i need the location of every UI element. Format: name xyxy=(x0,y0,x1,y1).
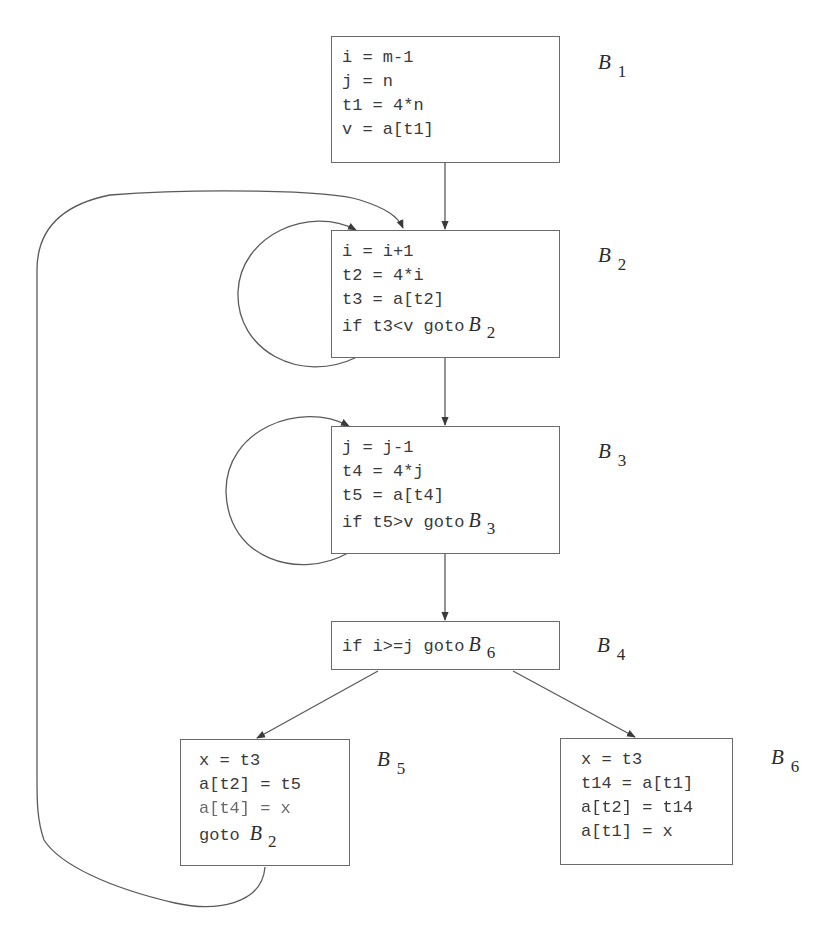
block-reference: B xyxy=(468,633,480,655)
code-line: j = j-1 xyxy=(342,436,559,460)
basic-block-b5: x = t3 a[t2] = t5 a[t4] = x gotoB2 xyxy=(180,739,350,866)
edge-b4-b6 xyxy=(513,671,635,737)
code-line: i = m-1 xyxy=(342,46,559,70)
code-line: if t5>v gotoB3 xyxy=(342,508,559,535)
block-reference: B xyxy=(250,822,262,844)
code-line: a[t2] = t14 xyxy=(581,796,732,820)
code-line: if t3<v gotoB2 xyxy=(342,312,559,339)
basic-block-b3: j = j-1 t4 = 4*j t5 = a[t4] if t5>v goto… xyxy=(331,426,560,554)
basic-block-b1: i = m-1 j = n t1 = 4*n v = a[t1] xyxy=(331,36,560,163)
code-line: a[t2] = t5 xyxy=(199,773,349,797)
code-line: j = n xyxy=(342,70,559,94)
flow-graph-diagram: i = m-1 j = n t1 = 4*n v = a[t1] B1 i = … xyxy=(0,0,834,930)
code-line: i = i+1 xyxy=(342,240,559,264)
code-line: t5 = a[t4] xyxy=(342,484,559,508)
block-reference: B xyxy=(468,313,480,335)
block-label-b2: B2 xyxy=(598,243,626,268)
block-label-b1: B1 xyxy=(598,50,626,75)
code-line: v = a[t1] xyxy=(342,118,559,142)
basic-block-b2: i = i+1 t2 = 4*i t3 = a[t2] if t3<v goto… xyxy=(331,230,560,358)
code-line: x = t3 xyxy=(199,749,349,773)
edge-b4-b5 xyxy=(257,671,378,738)
basic-block-b6: x = t3 t14 = a[t1] a[t2] = t14 a[t1] = x xyxy=(560,738,733,865)
block-label-b3: B3 xyxy=(598,439,626,464)
code-line: t14 = a[t1] xyxy=(581,772,732,796)
code-line: if i>=j gotoB6 xyxy=(342,632,559,659)
code-line: t3 = a[t2] xyxy=(342,288,559,312)
code-line: a[t4] = x xyxy=(199,797,349,821)
block-label-b5: B5 xyxy=(377,747,405,772)
code-line: t2 = 4*i xyxy=(342,264,559,288)
code-line: a[t1] = x xyxy=(581,820,732,844)
code-line: x = t3 xyxy=(581,748,732,772)
block-label-b4: B4 xyxy=(597,633,625,658)
code-line: t1 = 4*n xyxy=(342,94,559,118)
block-reference: B xyxy=(468,509,480,531)
code-line: t4 = 4*j xyxy=(342,460,559,484)
block-label-b6: B6 xyxy=(771,745,799,770)
code-line: gotoB2 xyxy=(199,821,349,848)
basic-block-b4: if i>=j gotoB6 xyxy=(331,621,560,670)
cut-off-caption xyxy=(30,918,510,930)
